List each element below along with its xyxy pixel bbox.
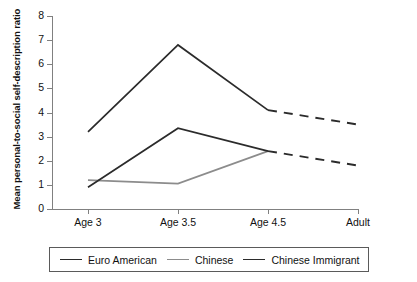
legend-swatch bbox=[60, 259, 82, 260]
legend-swatch bbox=[167, 259, 189, 260]
legend-label: Chinese Immigrant bbox=[271, 254, 359, 266]
series-line-solid bbox=[88, 128, 268, 187]
series-line-solid bbox=[88, 45, 268, 132]
chart-legend: Euro AmericanChineseChinese Immigrant bbox=[49, 247, 369, 272]
series-line-dashed bbox=[268, 151, 358, 165]
legend-label: Euro American bbox=[88, 254, 157, 266]
legend-swatch bbox=[243, 259, 265, 260]
series-line-solid bbox=[88, 151, 268, 184]
legend-label: Chinese bbox=[195, 254, 234, 266]
chart-figure: Mean personal-to-social self-description… bbox=[0, 0, 417, 282]
series-line-dashed bbox=[268, 110, 358, 124]
chart-plot-area bbox=[0, 0, 417, 282]
legend-item[interactable]: Euro American bbox=[60, 254, 157, 266]
legend-item[interactable]: Chinese Immigrant bbox=[243, 254, 359, 266]
legend-item[interactable]: Chinese bbox=[167, 254, 234, 266]
